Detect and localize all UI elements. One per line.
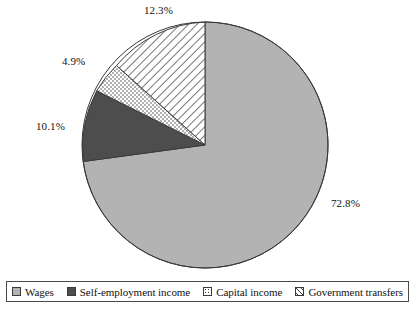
pie-label-self-employment-income: 10.1%	[36, 120, 65, 132]
chart-legend: Wages Self-employment income Capital inc…	[6, 281, 409, 302]
pie-label-wages: 72.8%	[331, 197, 360, 209]
pie-chart-figure: 12.3% 4.9% 10.1% 72.8% Wages Self-employ…	[0, 0, 417, 312]
pie-plot-area: 12.3% 4.9% 10.1% 72.8%	[0, 0, 417, 272]
pie-label-capital-income: 4.9%	[62, 55, 85, 67]
legend-item-government-transfers[interactable]: Government transfers	[295, 286, 403, 298]
legend-item-wages[interactable]: Wages	[12, 286, 54, 298]
legend-label-government-transfers: Government transfers	[308, 286, 403, 298]
legend-item-capital-income[interactable]: Capital income	[203, 286, 282, 298]
solid-dark-gray-swatch-icon	[67, 287, 76, 296]
legend-label-capital-income: Capital income	[216, 286, 282, 298]
legend-item-self-employment-income[interactable]: Self-employment income	[67, 286, 190, 298]
legend-label-self-employment-income: Self-employment income	[80, 286, 190, 298]
pie-label-government-transfers: 12.3%	[144, 4, 173, 16]
pie-svg	[0, 0, 417, 272]
dotted-swatch-icon	[203, 287, 212, 296]
legend-label-wages: Wages	[25, 286, 54, 298]
diagonal-hatch-swatch-icon	[295, 287, 304, 296]
solid-light-gray-swatch-icon	[12, 287, 21, 296]
